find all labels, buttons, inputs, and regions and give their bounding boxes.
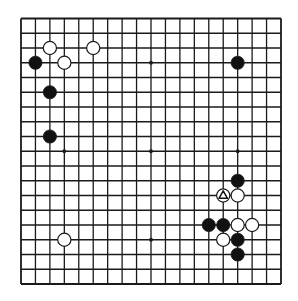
go-board-grid[interactable] xyxy=(0,0,298,301)
star-point-icon xyxy=(149,238,153,242)
white-stone[interactable] xyxy=(246,218,259,231)
white-stone[interactable] xyxy=(231,218,244,231)
white-stone[interactable] xyxy=(43,41,56,54)
white-stone[interactable] xyxy=(87,41,100,54)
black-stone[interactable] xyxy=(231,56,244,69)
star-point-icon xyxy=(236,149,240,153)
black-stone[interactable] xyxy=(231,233,244,246)
white-stone[interactable] xyxy=(217,233,230,246)
black-stone[interactable] xyxy=(202,218,215,231)
black-stone[interactable] xyxy=(231,248,244,261)
white-stone[interactable] xyxy=(58,233,71,246)
black-stone[interactable] xyxy=(217,218,230,231)
black-stone[interactable] xyxy=(43,130,56,143)
go-board[interactable] xyxy=(0,0,298,301)
white-stone[interactable] xyxy=(58,56,71,69)
black-stone[interactable] xyxy=(231,174,244,187)
star-point-icon xyxy=(149,149,153,153)
black-stone[interactable] xyxy=(29,56,42,69)
star-point-icon xyxy=(149,61,153,65)
white-stone[interactable] xyxy=(231,189,244,202)
black-stone[interactable] xyxy=(43,86,56,99)
star-point-icon xyxy=(62,149,66,153)
